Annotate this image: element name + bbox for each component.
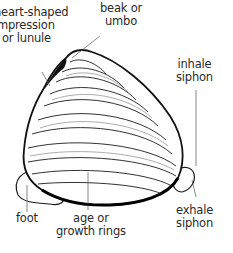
label-foot: foot [16, 212, 38, 225]
label-growth-rings: age or growth rings [56, 212, 126, 238]
label-beak-umbo: beak or umbo [100, 2, 142, 28]
label-inhale-siphon: inhale siphon [176, 58, 213, 84]
label-lunule: heart-shaped impression or lunule [0, 6, 68, 45]
clam-diagram: heart-shaped impression or lunule beak o… [0, 0, 233, 253]
label-exhale-siphon: exhale siphon [176, 204, 213, 230]
